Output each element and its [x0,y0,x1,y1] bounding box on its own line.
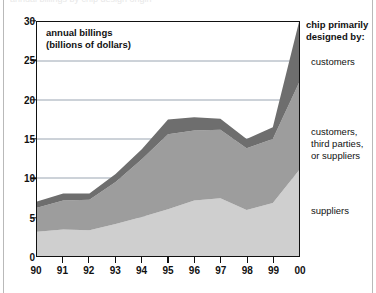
stacked-area-chart [37,22,299,256]
legend-label-mixed-line1: customers, [311,126,376,138]
legend-item-mixed: customers, third parties, or suppliers [311,126,376,162]
legend-label-suppliers: suppliers [311,205,376,217]
x-axis-tick-mark [194,257,195,263]
y-axis-tick-label: 0 [11,252,35,263]
figure-left-rule [3,0,4,293]
x-axis-tick-label: 92 [83,265,94,276]
plot-caption-line2: (billions of dollars) [46,39,131,51]
legend-title-line2: designed by: [306,31,376,43]
legend-label-mixed-line3: or suppliers [311,150,376,162]
x-axis-tick-mark [220,257,221,263]
figure: annual billings by chip design origin 05… [0,0,376,293]
plot-area [36,21,300,257]
legend-item-customers: customers [311,56,376,68]
x-axis-tick-label: 00 [294,265,305,276]
x-axis-tick-label: 91 [57,265,68,276]
x-axis-tick-label: 95 [162,265,173,276]
x-axis-tick-label: 98 [242,265,253,276]
plot-caption: annual billings (billions of dollars) [46,27,131,51]
x-axis-tick-mark [88,257,89,263]
x-axis-tick-mark [167,257,168,263]
x-axis-tick-mark [62,257,63,263]
x-axis-tick-mark [273,257,274,263]
x-axis-tick-label: 97 [215,265,226,276]
plot-caption-line1: annual billings [46,27,131,39]
x-axis-tick-mark [115,257,116,263]
x-axis-tick-label: 96 [189,265,200,276]
clipped-figure-title: annual billings by chip design origin [10,0,340,4]
legend-title: chip primarily designed by: [306,19,376,43]
x-axis-tick-label: 90 [30,265,41,276]
x-axis-tick-mark [247,257,248,263]
legend-item-suppliers: suppliers [311,205,376,217]
legend-label-customers: customers [311,56,376,68]
x-axis-tick-label: 93 [110,265,121,276]
legend-title-line1: chip primarily [306,19,376,31]
x-axis-tick-label: 94 [136,265,147,276]
legend-label-mixed-line2: third parties, [311,138,376,150]
x-axis-tick-mark [141,257,142,263]
x-axis-tick-label: 99 [268,265,279,276]
